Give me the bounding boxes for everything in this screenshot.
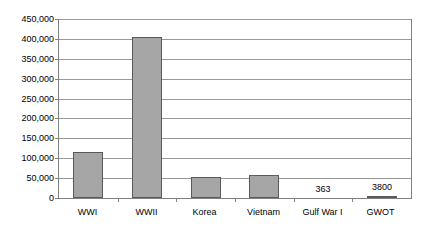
bar-chart: 050,000100,000150,000200,000250,000300,0… <box>0 0 422 230</box>
bar <box>249 175 279 198</box>
y-axis-tick <box>55 79 59 80</box>
x-axis-label: Vietnam <box>234 207 293 217</box>
y-axis-label: 200,000 <box>21 114 54 123</box>
x-axis-label: GWOT <box>351 207 410 217</box>
y-axis-label: 300,000 <box>21 75 54 84</box>
bar-value-label: 3800 <box>352 183 412 192</box>
y-axis-tick <box>55 158 59 159</box>
gridline <box>59 79 411 80</box>
bar <box>132 37 162 198</box>
y-axis-tick <box>55 198 59 199</box>
x-axis-tick <box>294 198 295 202</box>
gridline <box>59 59 411 60</box>
y-axis-tick <box>55 39 59 40</box>
y-axis-tick <box>55 178 59 179</box>
y-axis-label: 150,000 <box>21 134 54 143</box>
bar <box>191 177 221 198</box>
x-axis-tick <box>118 198 119 202</box>
gridline <box>59 138 411 139</box>
x-axis-tick <box>176 198 177 202</box>
y-axis-label: 0 <box>49 194 54 203</box>
y-axis-tick <box>55 118 59 119</box>
y-axis-tick <box>55 59 59 60</box>
bar-value-label: 363 <box>293 185 353 194</box>
y-axis-label: 100,000 <box>21 154 54 163</box>
y-axis-tick <box>55 19 59 20</box>
y-axis-tick <box>55 99 59 100</box>
x-axis-label: Korea <box>175 207 234 217</box>
x-axis-label: Gulf War I <box>293 207 352 217</box>
gridline <box>59 99 411 100</box>
y-axis-label: 450,000 <box>21 15 54 24</box>
x-axis-tick <box>235 198 236 202</box>
bar <box>73 152 103 198</box>
y-axis-label: 250,000 <box>21 95 54 104</box>
gridline <box>59 118 411 119</box>
gridline <box>59 178 411 179</box>
gridline <box>59 39 411 40</box>
x-axis-tick <box>352 198 353 202</box>
y-axis-label: 400,000 <box>21 35 54 44</box>
y-axis-label: 350,000 <box>21 55 54 64</box>
x-axis-label: WWI <box>58 207 117 217</box>
plot-area: 3633800 <box>58 19 412 199</box>
y-axis-tick <box>55 138 59 139</box>
gridline <box>59 158 411 159</box>
bar <box>367 196 397 198</box>
x-axis-label: WWII <box>117 207 176 217</box>
gridline <box>59 19 411 20</box>
y-axis-label: 50,000 <box>26 174 54 183</box>
